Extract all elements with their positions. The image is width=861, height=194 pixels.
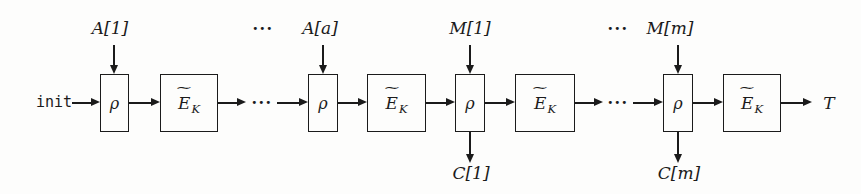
output-label-c1: C[1] (441, 163, 501, 183)
input-label-mm: M[m] (640, 18, 700, 38)
ellipsis-top-m: ··· (598, 20, 638, 38)
rho-box-3: ρ (455, 74, 485, 132)
input-label-m1: M[1] (440, 18, 500, 38)
wire-ek2-rho3 (426, 102, 447, 104)
wire-m1-down (469, 45, 471, 67)
init-label: init (20, 93, 72, 111)
arrowhead-into-rho3 (446, 98, 455, 106)
ek-subscript: K (191, 102, 200, 116)
ellipsis-line-m: ··· (598, 94, 638, 112)
wire-mm-down (677, 45, 679, 67)
output-label-cm: C[m] (649, 163, 709, 183)
rho-box-1: ρ (100, 74, 129, 132)
ek-base: E (741, 93, 753, 113)
ek-box-4: ∼EK (723, 74, 781, 132)
tilde-accent: ∼ (738, 83, 755, 93)
arrowhead-into-ek3 (506, 98, 515, 106)
tilde-accent: ∼ (175, 83, 192, 93)
wire-rho4-ek4 (693, 102, 715, 104)
wire-rho1-ek1 (129, 102, 151, 104)
wire-aa-down (322, 45, 324, 67)
ek-base: E (178, 93, 190, 113)
wire-cm-down (677, 132, 679, 156)
ellipsis-line-a: ··· (242, 94, 282, 112)
ek-subscript: K (754, 102, 763, 116)
input-label-aa: A[a] (290, 18, 350, 38)
rho-label-1: ρ (110, 94, 119, 113)
ek-label-2: ∼EK (385, 93, 407, 113)
wire-init-rho1 (72, 102, 92, 104)
wire-c1-down (469, 132, 471, 156)
arrowhead-m1 (466, 65, 474, 74)
rho-label-4: ρ (673, 94, 682, 113)
arrowhead-mm (674, 65, 682, 74)
ellipsis-top-a: ··· (243, 20, 283, 38)
tilde-accent: ∼ (531, 83, 548, 93)
ek-subscript: K (547, 102, 556, 116)
arrowhead-into-tag (803, 98, 812, 106)
wire-ek4-tag (781, 102, 804, 104)
arrowhead-cm (674, 154, 682, 163)
wire-dots-rho4 (633, 102, 654, 104)
arrowhead-into-rho2 (299, 98, 308, 106)
wire-dots-rho2 (277, 102, 299, 104)
rho-label-3: ρ (465, 94, 474, 113)
ek-base: E (534, 93, 546, 113)
wire-rho2-ek2 (338, 102, 359, 104)
arrowhead-aa (319, 65, 327, 74)
ek-box-3: ∼EK (515, 74, 575, 132)
rho-label-2: ρ (318, 94, 327, 113)
arrowhead-into-rho1 (91, 98, 100, 106)
rho-box-2: ρ (308, 74, 338, 132)
arrowhead-into-ek4 (714, 98, 723, 106)
tag-label: T (814, 94, 844, 112)
arrowhead-into-ek1 (151, 98, 160, 106)
arrowhead-c1 (466, 154, 474, 163)
wire-rho3-ek3 (485, 102, 507, 104)
ek-subscript: K (399, 102, 408, 116)
input-label-a1: A[1] (80, 18, 140, 38)
ek-box-1: ∼EK (160, 74, 218, 132)
wire-ek3-dots (575, 102, 595, 104)
ek-label-3: ∼EK (534, 93, 556, 113)
mode-of-operation-diagram: init A[1] ··· A[a] M[1] ··· M[m] ρ ∼EK ·… (0, 0, 861, 194)
arrowhead-into-ek2 (358, 98, 367, 106)
ek-base: E (385, 93, 397, 113)
wire-ek1-dots (218, 102, 237, 104)
ek-label-4: ∼EK (741, 93, 763, 113)
ek-box-2: ∼EK (367, 74, 426, 132)
arrowhead-into-rho4 (654, 98, 663, 106)
arrowhead-a1 (110, 65, 118, 74)
rho-box-4: ρ (663, 74, 693, 132)
ek-label-1: ∼EK (178, 93, 200, 113)
tilde-accent: ∼ (383, 83, 400, 93)
wire-a1-down (113, 45, 115, 67)
